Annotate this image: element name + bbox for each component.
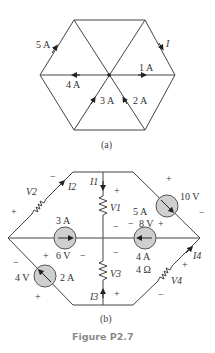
label-5a: 5 A bbox=[36, 39, 51, 50]
current-source-4a bbox=[134, 227, 156, 249]
center-node bbox=[107, 73, 111, 77]
label-v3: V3 bbox=[110, 268, 121, 279]
part-b-label: (b) bbox=[100, 313, 112, 325]
src4a-plus: + bbox=[158, 218, 164, 229]
label-3a-b: 3 A bbox=[56, 215, 71, 226]
src3a-minus: − bbox=[80, 250, 86, 261]
label-v1: V1 bbox=[110, 202, 121, 213]
figure-p2-7: 5 A 4 A 1 A 3 A 2 A I (a) bbox=[0, 0, 215, 353]
label-2a: 2 A bbox=[133, 95, 148, 106]
current-source-3a bbox=[54, 227, 76, 249]
arrow-i4-icon bbox=[186, 248, 191, 253]
v1-minus: − bbox=[113, 221, 119, 232]
figure-caption: Figure P2.7 bbox=[72, 331, 134, 342]
label-4a: 4 A bbox=[66, 79, 81, 90]
v3-plus: + bbox=[114, 288, 120, 299]
src2a-plus: + bbox=[35, 291, 41, 302]
label-v2: V2 bbox=[26, 186, 37, 197]
part-a-label: (a) bbox=[101, 139, 112, 151]
label-2a-b: 2 A bbox=[60, 272, 75, 283]
hexagon-network-a: 5 A 4 A 1 A 3 A 2 A I (a) bbox=[36, 20, 175, 151]
label-8v: 8 V bbox=[139, 218, 154, 229]
src4a-minus: − bbox=[128, 218, 134, 229]
label-v4: V4 bbox=[171, 275, 182, 286]
v2-minus: − bbox=[50, 171, 56, 182]
label-4a-b: 4 A bbox=[136, 251, 151, 262]
circuit-b: V2 − + I2 I1 V1 + − V3 − + I3 3 A + 6 V … bbox=[8, 171, 205, 325]
src5a-plus: + bbox=[166, 173, 172, 184]
label-i4: I4 bbox=[192, 250, 201, 261]
label-i3: I3 bbox=[89, 291, 98, 302]
label-3a: 3 A bbox=[100, 95, 115, 106]
label-i2: I2 bbox=[67, 181, 76, 192]
label-i: I bbox=[165, 38, 170, 49]
label-i1: I1 bbox=[89, 176, 98, 187]
src3a-plus: + bbox=[43, 250, 49, 261]
v1-plus: + bbox=[114, 185, 120, 196]
src2a-minus: − bbox=[13, 257, 19, 268]
current-source-5a bbox=[156, 195, 178, 217]
v2-plus: + bbox=[11, 206, 17, 217]
arrow-3a-icon bbox=[91, 99, 94, 104]
label-5a-b: 5 A bbox=[133, 206, 148, 217]
v4-plus: + bbox=[182, 259, 188, 270]
label-6v: 6 V bbox=[56, 250, 71, 261]
label-4v: 4 V bbox=[15, 272, 30, 283]
arrow-i2-icon bbox=[58, 182, 63, 187]
label-4ohm: 4 Ω bbox=[136, 264, 151, 275]
current-source-2a bbox=[34, 265, 56, 287]
v4-minus: − bbox=[158, 289, 164, 300]
label-1a: 1 A bbox=[139, 62, 154, 73]
src5a-minus: − bbox=[199, 207, 205, 218]
label-10v: 10 V bbox=[180, 191, 200, 202]
v3-minus: − bbox=[113, 247, 119, 258]
